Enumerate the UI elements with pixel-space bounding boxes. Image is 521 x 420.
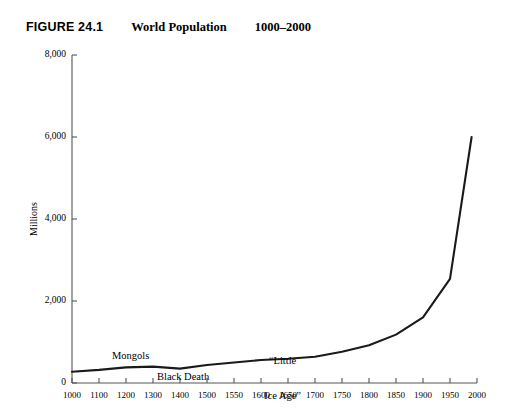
annotation-mongols: Mongols	[112, 350, 149, 362]
y-axis-tick-label: 0	[24, 378, 66, 388]
annotation-black-death: Black Death	[157, 371, 209, 383]
y-axis-tick-label: 8,000	[24, 50, 66, 60]
annotation-little-ice-age-line1: “Little	[264, 355, 301, 367]
line-chart: 02,0004,0006,0008,000 100011001200130014…	[0, 0, 521, 420]
y-axis-tick-label: 2,000	[24, 296, 66, 306]
y-axis-tick-label: 6,000	[24, 132, 66, 142]
chart-canvas	[0, 0, 521, 420]
y-axis-title: Millions	[28, 202, 39, 236]
x-axis-tick-label: 2000	[460, 391, 494, 400]
annotation-little-ice-age-line2: Ice Age”	[264, 390, 301, 402]
annotation-little-ice-age: “Little Ice Age”	[264, 331, 301, 420]
y-axis-ticks	[72, 55, 77, 383]
